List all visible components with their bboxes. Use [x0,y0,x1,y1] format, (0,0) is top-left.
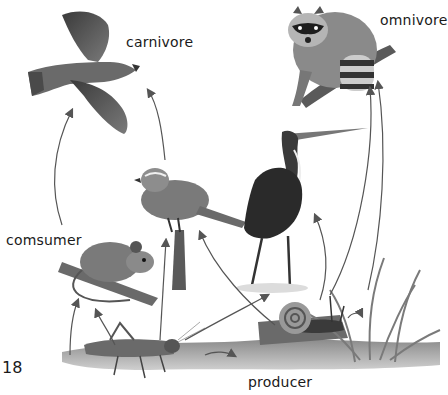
page-number: 18 [2,358,22,377]
label-consumer: comsumer [6,232,82,248]
heron-illustration [236,128,368,293]
illustration [0,0,448,395]
label-carnivore: carnivore [126,34,193,50]
food-web-diagram: carnivore omnivore comsumer producer 18 [0,0,448,395]
sparrow-illustration [134,168,246,290]
label-producer: producer [248,374,312,390]
label-omnivore: omnivore [380,12,447,28]
hawk-illustration [28,12,140,134]
mouse-illustration [58,241,158,306]
